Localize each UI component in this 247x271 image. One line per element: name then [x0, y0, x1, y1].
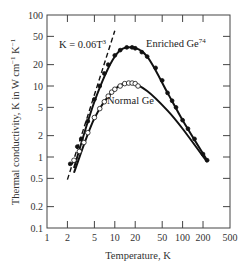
enriched-data-point — [125, 45, 129, 49]
normal-data-point — [92, 115, 97, 120]
normal-data-point — [82, 140, 87, 145]
y-tick-label: 50 — [33, 31, 43, 42]
normal-data-point — [97, 106, 102, 111]
enriched-ge-label: Enriched Ge74 — [146, 37, 206, 49]
enriched-data-point — [205, 158, 209, 162]
enriched-data-point — [68, 162, 72, 166]
x-axis-title: Temperature, K — [105, 250, 171, 261]
y-axis-title: Thermal conductivity, K in W cm−1 K−1 — [9, 38, 21, 205]
x-tick-label: 2 — [65, 232, 70, 243]
enriched-data-point — [186, 127, 190, 131]
thermal-conductivity-chart: 1251020501002005000.10.20.5125102050100 … — [0, 0, 247, 271]
normal-data-point — [136, 84, 141, 89]
enriched-data-point — [181, 118, 185, 122]
enriched-data-point — [118, 48, 122, 52]
x-tick-label: 1 — [45, 232, 50, 243]
enriched-data-point — [154, 66, 158, 70]
enriched-data-point — [170, 99, 174, 103]
normal-data-point — [72, 158, 77, 163]
y-tick-label: 0.1 — [31, 223, 44, 234]
x-tick-label: 10 — [110, 232, 120, 243]
y-tick-label: 0.2 — [31, 201, 44, 212]
normal-ge-label: Normal Ge — [107, 95, 154, 106]
normal-data-point — [118, 84, 123, 89]
y-tick-label: 2 — [38, 130, 43, 141]
enriched-data-point — [86, 119, 90, 123]
normal-data-point — [113, 87, 118, 92]
enriched-data-point — [145, 55, 149, 59]
x-tick-label: 500 — [223, 232, 238, 243]
normal-data-point — [86, 130, 91, 135]
x-tick-label: 100 — [175, 232, 190, 243]
y-tick-label: 20 — [33, 59, 43, 70]
normal-data-point — [77, 149, 82, 154]
enriched-data-point — [102, 72, 106, 76]
x-tick-label: 50 — [157, 232, 167, 243]
enriched-data-point — [98, 84, 102, 88]
enriched-data-point — [75, 145, 79, 149]
enriched-data-point — [174, 105, 178, 109]
x-tick-label: 200 — [196, 232, 211, 243]
enriched-data-point — [193, 137, 197, 141]
x-tick-label: 5 — [92, 232, 97, 243]
x-tick-label: 20 — [130, 232, 140, 243]
enriched-data-point — [133, 46, 137, 50]
y-tick-label: 10 — [33, 81, 43, 92]
t3-law-label: K = 0.06T3 — [59, 38, 107, 50]
y-tick-label: 1 — [38, 152, 43, 163]
enriched-data-point — [201, 152, 205, 156]
y-tick-label: 5 — [38, 102, 43, 113]
enriched-data-point — [166, 91, 170, 95]
enriched-data-point — [140, 50, 144, 54]
enriched-data-point — [160, 78, 164, 82]
normal-data-point — [102, 99, 107, 104]
enriched-data-point — [113, 53, 117, 57]
enriched-data-point — [92, 97, 96, 101]
y-tick-label: 0.5 — [31, 173, 44, 184]
fit-curve — [74, 47, 207, 168]
enriched-data-point — [106, 63, 110, 67]
y-tick-label: 100 — [28, 10, 43, 21]
